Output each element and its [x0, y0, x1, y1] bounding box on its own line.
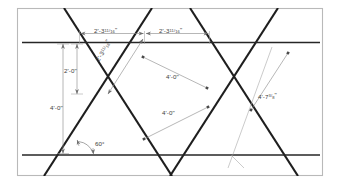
diagonal-dimension-upper-left: 2'-311/16"	[92, 38, 143, 94]
dimension-label-top-2: 2'-311/16"	[159, 26, 182, 35]
angle-arc	[79, 142, 94, 154]
center-dimension-lower: 4'-0"	[144, 107, 208, 139]
dimension-label-center-upper: 4'-0"	[166, 73, 179, 80]
leader-line-right-diagonal	[251, 53, 288, 110]
technical-drawing: 2'-311/16" 2'-311/16" 2'-311/16"	[0, 0, 341, 187]
dimension-label-vertical-full: 4'-0"	[50, 104, 63, 111]
left-vertical-dimensions: 2'-0" 4'-0"	[50, 44, 83, 154]
right-diagonal-dimension: 4'-73/8"	[228, 47, 288, 168]
dimension-label-vertical-half: 2'-0"	[64, 67, 77, 74]
center-dimension-upper: 4'-0"	[143, 57, 207, 88]
top-dimension-chain: 2'-311/16" 2'-311/16"	[80, 26, 210, 44]
leader-line-center-lower	[144, 107, 208, 139]
dimension-label-right-diagonal: 4'-73/8"	[258, 91, 277, 100]
drawing-canvas: 2'-311/16" 2'-311/16" 2'-311/16"	[0, 0, 341, 187]
angle-label: 60°	[95, 140, 105, 147]
angle-annotation: 60°	[77, 140, 105, 154]
dimension-label-top-1: 2'-311/16"	[94, 26, 117, 35]
dimension-label-center-lower: 4'-0"	[162, 109, 175, 116]
